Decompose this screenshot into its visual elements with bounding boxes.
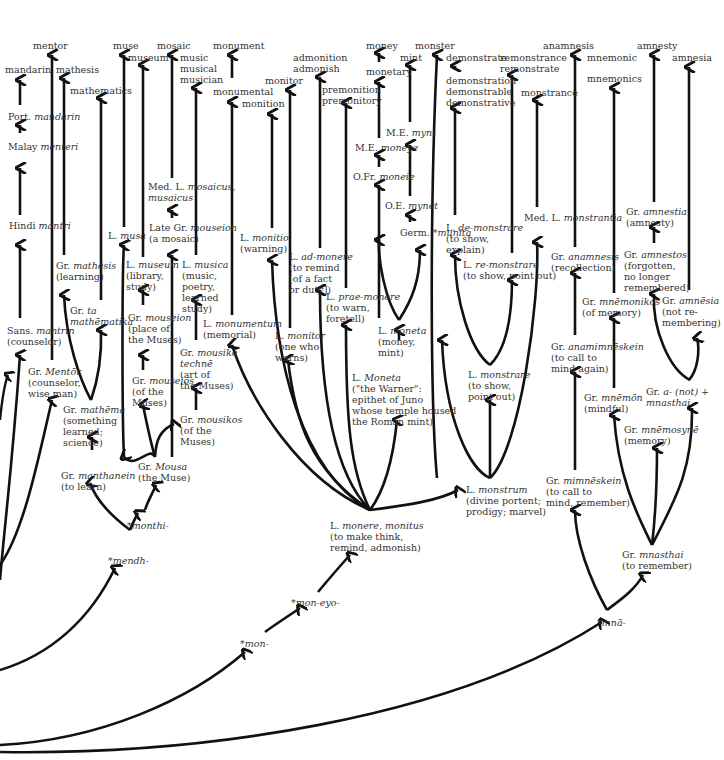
node-l-monere: L. monere, monitus(to make think, remind…: [330, 520, 424, 553]
gloss: (memorial): [203, 329, 256, 340]
word-label: *monthi-: [127, 520, 169, 531]
language-label: L.: [330, 520, 342, 531]
node-music: music musical musician: [180, 52, 223, 85]
node-l-monitio: L. monitio(warning): [240, 232, 289, 254]
node-gr-mousikos: Gr. mousikos(of the Muses): [180, 414, 242, 447]
gloss: (to warn, foretell): [326, 302, 370, 324]
gloss: (counselor, wise man): [28, 377, 81, 399]
source-word: moneye: [381, 142, 418, 153]
node-mosaic: mosaic: [157, 40, 191, 51]
word-label: mandarin: [5, 64, 51, 75]
language-label: Gr.: [28, 366, 45, 377]
word-label: money: [366, 40, 398, 51]
gloss: (the Muse): [138, 472, 190, 483]
gloss: ("the Warner": epithet of Juno whose tem…: [352, 383, 456, 427]
node-gr-mousa: Gr. Mousa(the Muse): [138, 461, 190, 483]
word-label: mint: [400, 52, 422, 63]
word-label: mathesis: [56, 64, 99, 75]
word-label: demonstrate: [446, 52, 507, 63]
node-l-re-monstrare: L. re-monstrare(to show, point out): [463, 259, 556, 281]
gloss: (a mosaic): [149, 233, 199, 244]
node-malay-menteri: Malay menteri: [8, 141, 78, 152]
language-label: Gr.: [61, 470, 78, 481]
word-label: monitor: [265, 75, 303, 86]
source-word: mnēmōn: [601, 392, 643, 403]
node-root-mon: *mon-: [240, 638, 269, 649]
node-gr-manthanein: Gr. manthanein(to learn): [61, 470, 135, 492]
gloss: (not re- membering): [662, 306, 721, 328]
source-word: manthanein: [78, 470, 135, 481]
node-late-gr-mouseion: Late Gr. mouseion(a mosaic): [149, 222, 237, 244]
source-word: mouseion: [191, 222, 237, 233]
language-label: Gr.: [180, 347, 197, 358]
node-med-l-monstrantia: Med. L. monstrantia: [524, 212, 622, 223]
node-gr-anamnesis: Gr. anamnesis(recollection): [551, 251, 619, 273]
node-me-mynt: M.E. mynt: [386, 127, 436, 138]
language-label: Gr.: [56, 260, 73, 271]
word-label: monumental: [213, 86, 273, 97]
language-label: Gr.: [63, 404, 80, 415]
language-label: Gr.: [551, 251, 568, 262]
word-label: demonstration demonstrable demonstrative: [446, 75, 516, 108]
node-oe-mynet: O.E. mynet: [385, 200, 438, 211]
node-monument: monument: [213, 40, 265, 51]
node-money: money: [366, 40, 398, 51]
language-label: L.: [108, 230, 120, 241]
language-label: L.: [182, 259, 194, 270]
gloss: (to remember): [622, 560, 692, 571]
node-l-moneta: L. moneta(money, mint): [378, 325, 426, 358]
language-label: L.: [352, 372, 364, 383]
node-gr-amnesia: Gr. amnēsia(not re- membering): [662, 295, 721, 328]
language-label: Malay: [8, 141, 40, 152]
source-word: mandarin: [34, 111, 80, 122]
node-l-musica: L. musica(music, poetry, learned study): [182, 259, 228, 314]
source-word: monstrantia: [564, 212, 622, 223]
source-word: monitio: [252, 232, 288, 243]
word-label: *mendh-: [108, 555, 149, 566]
word-label: *mon-: [240, 638, 269, 649]
node-l-musa: L. musa: [108, 230, 146, 241]
source-word: de-monstrare: [458, 222, 523, 233]
word-label: *mnā-: [597, 617, 626, 628]
source-word: mimnēskein: [563, 475, 621, 486]
source-word: mathēma: [80, 404, 125, 415]
word-label: *mon-eyo-: [291, 597, 340, 608]
gloss: (of the Muses): [132, 386, 167, 408]
language-label: Gr.: [584, 392, 601, 403]
source-word: mynt: [412, 127, 436, 138]
language-label: Late Gr.: [149, 222, 191, 233]
word-label: mnemonics: [587, 73, 642, 84]
word-label: museum: [128, 52, 169, 63]
source-word: mnasthai: [639, 549, 683, 560]
source-word: ad-monere: [301, 251, 353, 262]
source-word: anamnesis: [568, 251, 619, 262]
gloss: (to call to mind again): [551, 352, 609, 374]
node-root-monthi: *monthi-: [127, 520, 169, 531]
gloss: (of the Muses): [180, 425, 215, 447]
language-label: Gr.: [132, 375, 149, 386]
node-gr-mnemosyne: Gr. mnēmosynē(memory): [624, 424, 699, 446]
node-l-ad-monere: L. ad-monere(to remind [of a fact or dut…: [289, 251, 353, 295]
node-mnemonics: mnemonics: [587, 73, 642, 84]
node-monetary: monetary: [366, 66, 412, 77]
node-gr-mouseion-place: Gr. mouseion(place of the Muses): [128, 312, 191, 345]
node-gr-ta-mathematika: Gr. ta mathēmatika: [70, 305, 133, 327]
node-mathematics: mathematics: [70, 85, 132, 96]
node-gr-mnasthai: Gr. mnasthai(to remember): [622, 549, 692, 571]
source-word: monumentum: [215, 318, 282, 329]
word-label: monument: [213, 40, 265, 51]
gloss: (learning): [56, 271, 104, 282]
gloss: (to learn): [61, 481, 106, 492]
word-label: admonition admonish: [293, 52, 347, 74]
node-root-mon-eyo: *mon-eyo-: [291, 597, 340, 608]
gloss: (divine portent; prodigy; marvel): [466, 495, 546, 517]
node-root-mendh: *mendh-: [108, 555, 149, 566]
node-demonstrate: demonstrate: [446, 52, 507, 63]
language-label: L.: [378, 325, 390, 336]
node-museum: museum: [128, 52, 169, 63]
language-label: Gr.: [646, 386, 663, 397]
node-me-moneye: M.E. moneye: [355, 142, 418, 153]
node-amnesia: amnesia: [672, 52, 712, 63]
word-label: music musical musician: [180, 52, 223, 85]
word-label: mathematics: [70, 85, 132, 96]
